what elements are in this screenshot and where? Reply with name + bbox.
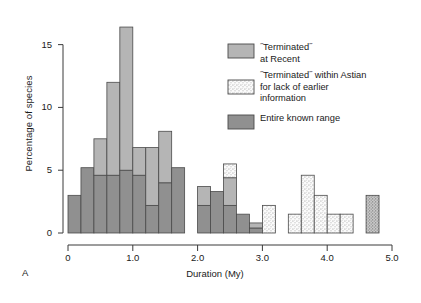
y-tick-label: 5: [26, 164, 52, 175]
histogram-bar-segment: [94, 175, 107, 233]
legend-label-line: ˝Terminated˝ within Astian: [260, 70, 366, 82]
histogram-bar-segment: [133, 175, 146, 233]
x-tick-label: 0: [53, 252, 83, 263]
x-tick-label: 3.0: [247, 252, 277, 263]
legend-swatch-terminated-within-astian: [228, 80, 254, 94]
legend-label-line: Entire known range: [260, 113, 340, 125]
y-tick-label: 0: [26, 227, 52, 238]
histogram-bar-segment: [211, 192, 224, 233]
histogram-bar-segment: [107, 175, 120, 233]
histogram-bar-segment: [301, 175, 314, 233]
legend-label-terminated-within-astian: ˝Terminated˝ within Astianfor lack of ea…: [260, 70, 366, 105]
x-tick-label: 5.0: [377, 252, 407, 263]
histogram-bar-segment: [249, 223, 262, 228]
histogram-bar-segment: [68, 195, 81, 233]
legend-label-line: at Recent: [260, 54, 312, 66]
histogram-bar-segment: [314, 195, 327, 233]
histogram-bar-segment: [81, 168, 94, 233]
histogram-bar-segment: [236, 214, 249, 233]
x-tick-label: 2.0: [183, 252, 213, 263]
histogram-bar-segment: [327, 214, 340, 233]
histogram-bar-segment: [94, 139, 107, 175]
histogram-bar-segment: [146, 148, 159, 206]
histogram-bar-segment: [198, 205, 211, 233]
legend-swatch-terminated-at-recent: [228, 44, 254, 58]
x-tick-label: 1.0: [118, 252, 148, 263]
histogram-bar-segment: [133, 148, 146, 176]
legend-label-line: for lack of earlier: [260, 82, 366, 94]
histogram-bar-segment: [262, 205, 275, 233]
histogram-bar-segment: [224, 205, 237, 233]
histogram-bar-segment: [340, 214, 353, 233]
legend-label-line: information: [260, 93, 366, 105]
histogram-bar-segment: [159, 131, 172, 182]
panel-label: A: [22, 267, 28, 278]
histogram-bar-segment: [198, 187, 211, 206]
legend-swatches: [228, 44, 254, 129]
legend-label-entire-known-range: Entire known range: [260, 113, 340, 125]
histogram-bar-segment: [249, 228, 262, 233]
histogram-bar-segment: [146, 205, 159, 233]
x-tick-label: 4.0: [312, 252, 342, 263]
y-axis-title: Percentage of species: [23, 49, 34, 199]
histogram-bar-segment: [366, 195, 379, 233]
histogram-bar-segment: [120, 27, 133, 170]
x-axis-title: Duration (My): [145, 268, 285, 279]
legend-label-line: ˝Terminated˝: [260, 42, 312, 54]
legend-label-terminated-at-recent: ˝Terminated˝at Recent: [260, 42, 312, 65]
histogram-bar-segment: [120, 170, 133, 233]
histogram-bar-segment: [159, 183, 172, 233]
histogram-bar-segment: [288, 214, 301, 233]
bar-group: [68, 27, 379, 233]
y-tick-label: 10: [26, 101, 52, 112]
legend-swatch-entire-known-range: [228, 115, 254, 129]
histogram-bar-segment: [172, 168, 185, 233]
histogram-bar-segment: [224, 178, 237, 206]
y-tick-label: 15: [26, 39, 52, 50]
histogram-bar-segment: [224, 164, 237, 178]
histogram-bar-segment: [107, 82, 120, 175]
